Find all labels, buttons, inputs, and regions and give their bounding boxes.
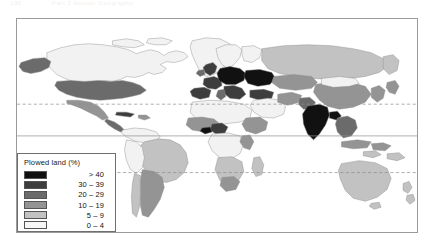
legend-label-20-29: 20 – 29 xyxy=(47,190,110,199)
legend-swatch-0-4 xyxy=(24,221,47,229)
legend-swatch-30-39 xyxy=(24,181,47,189)
page-header: 130 Part 2 Human Geography xyxy=(0,0,432,12)
map-legend: Plowed land (%) > 40 30 – 39 20 – 29 10 … xyxy=(17,153,116,232)
legend-label-10-19: 10 – 19 xyxy=(47,201,110,210)
page-folio: 130 xyxy=(10,0,22,6)
running-title: Part 2 Human Geography xyxy=(52,0,134,6)
legend-label-5-9: 5 – 9 xyxy=(47,211,110,220)
legend-label-30-39: 30 – 39 xyxy=(47,180,110,189)
legend-title: Plowed land (%) xyxy=(24,158,110,167)
legend-item: > 40 xyxy=(24,170,110,180)
legend-swatch-gt40 xyxy=(24,171,47,179)
legend-swatch-10-19 xyxy=(24,201,47,209)
legend-label-0-4: 0 – 4 xyxy=(47,221,110,230)
legend-label-gt40: > 40 xyxy=(47,170,110,179)
legend-item: 10 – 19 xyxy=(24,200,110,210)
legend-item: 5 – 9 xyxy=(24,210,110,220)
legend-item: 0 – 4 xyxy=(24,220,110,230)
legend-item: 20 – 29 xyxy=(24,190,110,200)
map-frame: .c0{fill:#f2f2f2;stroke:#8e8e8e;stroke-w… xyxy=(16,18,418,233)
legend-swatch-20-29 xyxy=(24,191,47,199)
legend-swatch-5-9 xyxy=(24,211,47,219)
legend-item: 30 – 39 xyxy=(24,180,110,190)
